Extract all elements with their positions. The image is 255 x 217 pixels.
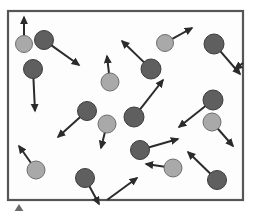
particle-dark [35, 31, 54, 50]
particle-dark [24, 60, 43, 79]
particle-light [203, 113, 221, 131]
particle-light [27, 161, 45, 179]
particle-dark [78, 102, 97, 121]
particle-light [101, 73, 119, 91]
particle-dark [141, 59, 161, 79]
particle-light [98, 115, 116, 133]
pointer-triangle-icon [15, 204, 24, 211]
particle-dark [76, 169, 95, 188]
particle-dark [208, 171, 227, 190]
particle-dark [124, 107, 144, 127]
particle-diagram-svg [0, 0, 255, 217]
particle-light [16, 36, 33, 53]
particle-light [164, 159, 182, 177]
particle-dark [204, 34, 224, 54]
particle-dark [131, 141, 150, 160]
particle-light [157, 35, 174, 52]
diagram-canvas [0, 0, 255, 217]
particle-dark [203, 90, 223, 110]
